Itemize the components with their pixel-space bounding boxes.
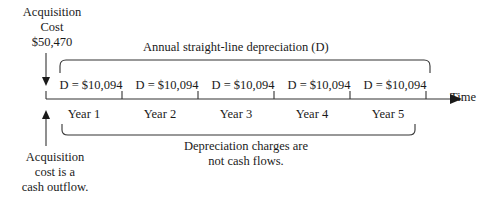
cash-outflow-note-line-3: cash outflow. [0,180,110,195]
cash-outflow-note: Acquisition cost is a cash outflow. [0,150,110,194]
year-label-5: Year 5 [350,107,426,122]
depreciation-charges-note: Depreciation charges are not cash flows. [178,139,314,169]
cash-outflow-note-line-2: cost is a [0,165,110,180]
depreciation-label-year-5: D = $10,094 [357,78,433,93]
depreciation-label-year-2: D = $10,094 [129,78,205,93]
acquisition-cost-line-2: Cost [10,20,94,35]
depreciation-label-year-1: D = $10,094 [53,78,129,93]
year-label-2: Year 2 [122,107,198,122]
annual-depreciation-bracket [60,60,430,73]
year-label-4: Year 4 [274,107,350,122]
acquisition-cost-line-1: Acquisition [10,5,94,20]
acquisition-cost-amount: $50,470 [10,35,94,50]
depreciation-label-year-3: D = $10,094 [205,78,281,93]
annual-depreciation-caption: Annual straight-line depreciation (D) [143,40,329,54]
depreciation-label-year-4: D = $10,094 [281,78,357,93]
depreciation-charges-bracket [62,124,415,135]
depreciation-note-line-2: not cash flows. [178,154,314,169]
acquisition-cost-block: Acquisition Cost $50,470 [10,5,94,49]
acquisition-cost-down-arrow [42,53,50,86]
cash-outflow-note-line-1: Acquisition [0,150,110,165]
year-label-1: Year 1 [46,107,122,122]
year-label-3: Year 3 [198,107,274,122]
time-axis-line [46,94,462,104]
time-axis-label: Time [450,90,476,104]
depreciation-timeline-diagram: Acquisition Cost $50,470 Annual straight… [0,0,491,203]
depreciation-note-line-1: Depreciation charges are [178,139,314,154]
